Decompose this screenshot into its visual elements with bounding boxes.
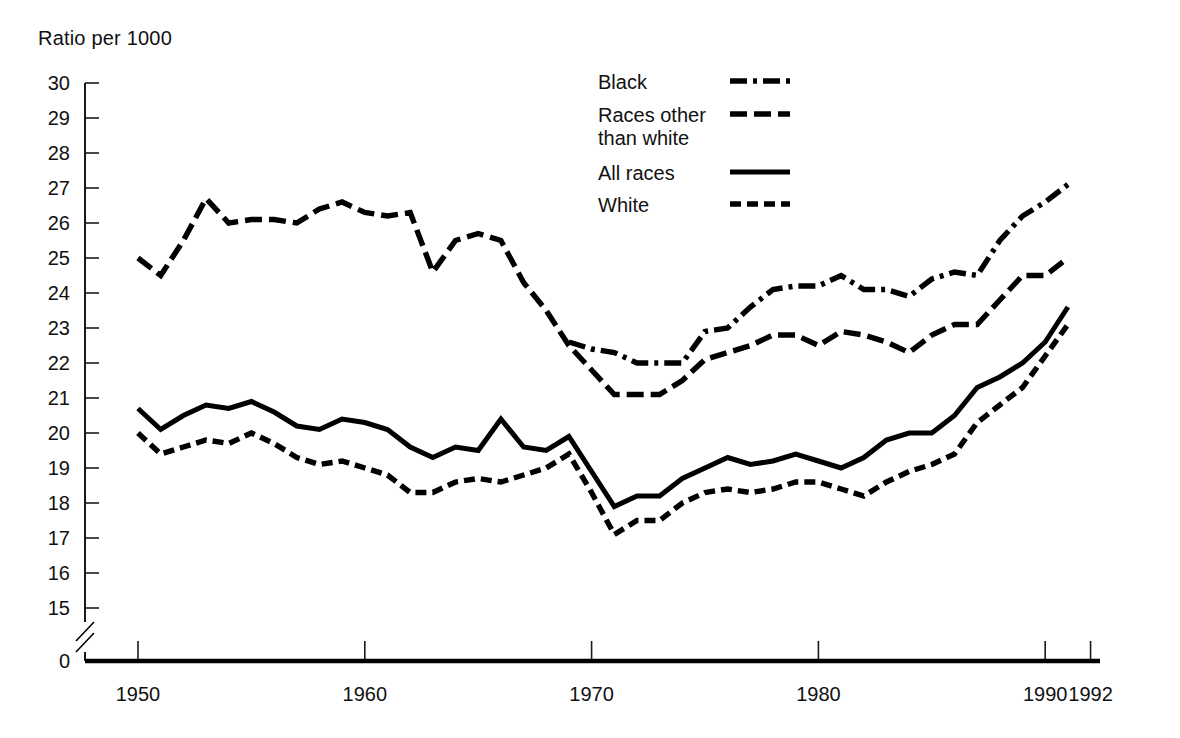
y-tick-marks	[85, 83, 99, 608]
y-tick-label-17: 17	[26, 528, 70, 548]
axis-break-mark	[76, 622, 94, 652]
series-line-races-other-than-white	[138, 199, 1068, 395]
y-tick-label-0: 0	[26, 651, 70, 671]
series-line-all-races	[138, 307, 1068, 507]
y-tick-label-24: 24	[26, 283, 70, 303]
y-tick-label-15: 15	[26, 598, 70, 618]
y-tick-label-20: 20	[26, 423, 70, 443]
x-tick-label-1950: 1950	[98, 684, 178, 704]
axes-group	[76, 83, 1100, 661]
x-tick-marks	[138, 641, 1091, 659]
y-tick-label-29: 29	[26, 108, 70, 128]
y-tick-label-27: 27	[26, 178, 70, 198]
y-tick-label-18: 18	[26, 493, 70, 513]
data-series-group	[138, 185, 1068, 535]
plot-canvas	[0, 0, 1180, 738]
y-tick-label-25: 25	[26, 248, 70, 268]
y-tick-label-26: 26	[26, 213, 70, 233]
legend-swatch-group	[730, 81, 790, 204]
legend-label-than-white: than white	[598, 127, 689, 150]
y-tick-label-23: 23	[26, 318, 70, 338]
x-tick-label-1980: 1980	[778, 684, 858, 704]
y-tick-label-30: 30	[26, 73, 70, 93]
legend-label-black: Black	[598, 71, 647, 94]
y-tick-label-19: 19	[26, 458, 70, 478]
legend-label-all-races: All races	[598, 162, 675, 185]
y-tick-label-21: 21	[26, 388, 70, 408]
legend-label-white: White	[598, 194, 649, 217]
ratio-per-1000-line-chart: Ratio per 1000 3029282726252423222120191…	[0, 0, 1180, 738]
legend-label-races-other: Races other	[598, 104, 706, 127]
x-tick-label-1960: 1960	[325, 684, 405, 704]
x-tick-label-1992: 1992	[1051, 684, 1131, 704]
x-tick-label-1970: 1970	[552, 684, 632, 704]
y-tick-label-28: 28	[26, 143, 70, 163]
y-tick-label-22: 22	[26, 353, 70, 373]
y-tick-label-16: 16	[26, 563, 70, 583]
series-line-white	[138, 325, 1068, 535]
